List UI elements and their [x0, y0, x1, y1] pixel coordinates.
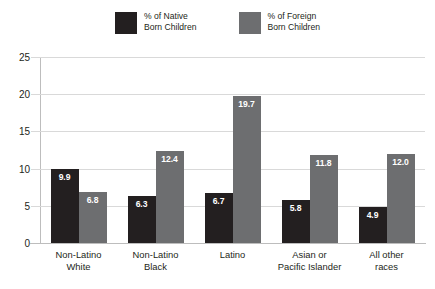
bar-value-label: 6.3 [128, 199, 156, 209]
bar-value-label: 4.9 [359, 210, 387, 220]
bar-native[interactable]: 4.9 [359, 207, 387, 243]
bar-group: 6.719.7 [205, 57, 261, 243]
bar-foreign[interactable]: 12.4 [156, 151, 184, 243]
y-axis-tick-label: 20 [6, 89, 30, 100]
legend-label-foreign: % of Foreign Born Children [268, 11, 321, 32]
bar-group: 5.811.8 [282, 57, 338, 243]
bar-value-label: 6.7 [205, 196, 233, 206]
bar-group: 6.312.4 [128, 57, 184, 243]
plot-area: 9.96.86.312.46.719.75.811.84.912.0 [40, 57, 425, 243]
bar-foreign[interactable]: 11.8 [310, 155, 338, 243]
legend-swatch-native [115, 12, 137, 34]
y-axis-tick-label: 5 [6, 200, 30, 211]
legend-swatch-foreign [239, 12, 261, 34]
bar-value-label: 5.8 [282, 203, 310, 213]
legend-item-native: % of Native Born Children [115, 11, 197, 34]
bar-value-label: 11.8 [310, 158, 338, 168]
bar-foreign[interactable]: 19.7 [233, 96, 261, 243]
bar-foreign[interactable]: 12.0 [387, 154, 415, 243]
bar-group: 4.912.0 [359, 57, 415, 243]
bar-foreign[interactable]: 6.8 [79, 192, 107, 243]
bar-value-label: 9.9 [51, 172, 79, 182]
x-axis-line [30, 243, 426, 244]
legend-item-foreign: % of Foreign Born Children [239, 11, 321, 34]
bar-group: 9.96.8 [51, 57, 107, 243]
bar-native[interactable]: 9.9 [51, 169, 79, 243]
y-axis-tick-labels: 0510152025 [0, 57, 30, 244]
y-axis-tick-label: 0 [6, 238, 30, 249]
bar-native[interactable]: 6.3 [128, 196, 156, 243]
chart-legend: % of Native Born Children % of Foreign B… [0, 11, 435, 34]
bar-native[interactable]: 6.7 [205, 193, 233, 243]
bar-value-label: 6.8 [79, 195, 107, 205]
y-axis-tick-label: 25 [6, 52, 30, 63]
bar-native[interactable]: 5.8 [282, 200, 310, 243]
bar-value-label: 19.7 [233, 99, 261, 109]
bar-value-label: 12.0 [387, 157, 415, 167]
y-axis-tick-label: 15 [6, 126, 30, 137]
y-axis-tick-label: 10 [6, 163, 30, 174]
legend-label-native: % of Native Born Children [144, 11, 197, 32]
bar-value-label: 12.4 [156, 154, 184, 164]
x-axis-category-label: All other races [332, 249, 435, 272]
